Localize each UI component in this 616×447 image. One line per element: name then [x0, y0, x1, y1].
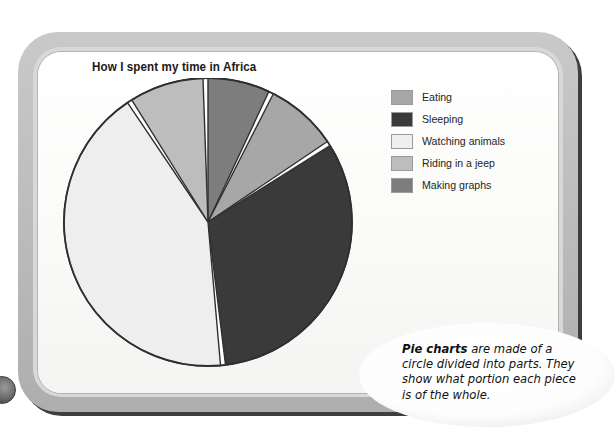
legend-swatch	[391, 156, 413, 171]
legend-label: Watching animals	[422, 135, 505, 147]
screenshot-stage: How I spent my time in Africa EatingSlee…	[0, 0, 616, 447]
pie-chart-svg	[60, 78, 360, 378]
legend-swatch	[391, 90, 413, 105]
chart-title: How I spent my time in Africa	[92, 60, 256, 74]
chart-legend: EatingSleepingWatching animalsRiding in …	[391, 86, 531, 196]
legend-item: Riding in a jeep	[391, 152, 531, 174]
legend-label: Sleeping	[422, 113, 463, 125]
legend-label: Riding in a jeep	[422, 157, 495, 169]
callout-bubble: Pie charts are made of a circle divided …	[358, 322, 616, 428]
binder-hole-dot	[0, 376, 16, 404]
legend-swatch	[391, 178, 413, 193]
legend-label: Making graphs	[422, 179, 491, 191]
callout-lead: Pie charts	[402, 342, 467, 356]
legend-item: Eating	[391, 86, 531, 108]
pie-chart	[60, 78, 360, 378]
legend-label: Eating	[422, 91, 452, 103]
legend-swatch	[391, 134, 413, 149]
legend-item: Sleeping	[391, 108, 531, 130]
callout-text: Pie charts are made of a circle divided …	[402, 342, 587, 403]
legend-item: Making graphs	[391, 174, 531, 196]
legend-swatch	[391, 112, 413, 127]
legend-item: Watching animals	[391, 130, 531, 152]
